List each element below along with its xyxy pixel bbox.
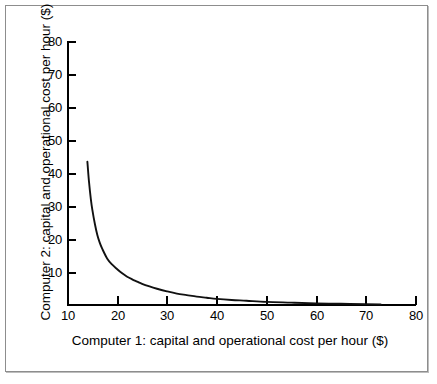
- y-axis-tick: [68, 239, 76, 241]
- x-axis-title: Computer 1: capital and operational cost…: [45, 333, 415, 348]
- x-axis-tick-label: 70: [352, 308, 380, 323]
- y-axis-tick: [68, 206, 76, 208]
- x-axis-tick-label: 60: [303, 308, 331, 323]
- x-axis-tick: [216, 296, 218, 305]
- x-axis-tick-label: 80: [402, 308, 430, 323]
- y-axis-tick: [68, 140, 76, 142]
- chart-curve-layer: [0, 0, 437, 384]
- x-axis-tick: [415, 296, 417, 305]
- x-axis-tick-label: 40: [203, 308, 231, 323]
- x-axis-tick: [166, 296, 168, 305]
- x-axis-tick: [316, 296, 318, 305]
- chart-plot-area: 80 70 60 50 40 30 20 10 10 20 30 40 50 6…: [0, 0, 437, 384]
- x-axis-line: [67, 304, 416, 306]
- y-axis-tick: [68, 173, 76, 175]
- x-axis-tick: [365, 296, 367, 305]
- x-axis-tick-label: 50: [253, 308, 281, 323]
- y-axis-title: Computer 2: capital and operational cost…: [38, 21, 53, 321]
- tradeoff-curve: [87, 162, 380, 305]
- x-axis-tick-label: 20: [104, 308, 132, 323]
- x-axis-tick: [266, 296, 268, 305]
- y-axis-tick: [68, 74, 76, 76]
- x-axis-tick: [117, 296, 119, 305]
- x-axis-tick-label: 10: [54, 308, 82, 323]
- x-axis-tick-label: 30: [153, 308, 181, 323]
- y-axis-tick: [68, 41, 76, 43]
- y-axis-tick: [68, 107, 76, 109]
- y-axis-tick: [68, 272, 76, 274]
- x-axis-tick: [67, 296, 69, 305]
